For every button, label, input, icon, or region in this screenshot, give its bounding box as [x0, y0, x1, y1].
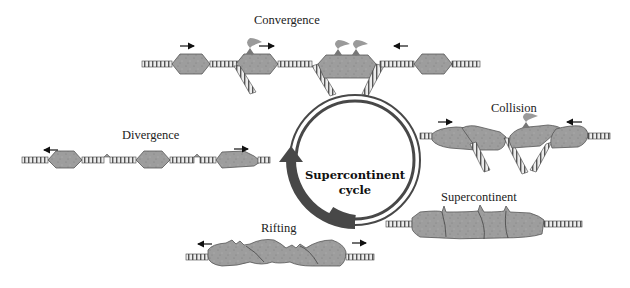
- cycle-arrowhead-icon: [279, 146, 303, 162]
- label-supercontinent: Supercontinent: [441, 190, 517, 205]
- volcano-icon: [334, 40, 350, 55]
- stage-convergence: [142, 38, 480, 96]
- stage-rifting: [186, 240, 374, 267]
- stage-supercontinent: [386, 205, 582, 239]
- label-rifting: Rifting: [261, 221, 296, 236]
- stage-divergence: [22, 149, 270, 168]
- mid-ocean-ridge: [194, 154, 200, 157]
- stage-collision: [420, 113, 610, 174]
- label-convergence: Convergence: [254, 13, 320, 28]
- volcano-icon: [352, 40, 368, 55]
- cycle-title: Supercontinent cycle: [300, 168, 410, 198]
- cycle-title-line1: Supercontinent: [300, 168, 410, 183]
- label-collision: Collision: [491, 101, 537, 116]
- continent: [172, 54, 210, 74]
- cycle-ring: [279, 95, 420, 229]
- cycle-title-line2: cycle: [300, 183, 410, 198]
- supercontinent-diagram: [0, 0, 630, 288]
- label-divergence: Divergence: [122, 128, 179, 143]
- mid-ocean-ridge: [104, 154, 110, 157]
